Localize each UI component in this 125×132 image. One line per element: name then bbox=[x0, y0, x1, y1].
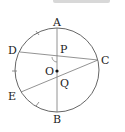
label-q: Q bbox=[60, 77, 69, 90]
label-o: O bbox=[45, 65, 54, 78]
label-e: E bbox=[8, 90, 16, 103]
chord-dc bbox=[20, 52, 98, 60]
label-a: A bbox=[52, 16, 62, 29]
label-c: C bbox=[101, 54, 109, 67]
label-p: P bbox=[60, 43, 68, 56]
label-d: D bbox=[8, 44, 17, 57]
angle-mark-p bbox=[52, 57, 57, 62]
circle-diagram: A B C D E P O Q bbox=[0, 0, 125, 132]
tick-mark-eb bbox=[36, 102, 39, 106]
label-b: B bbox=[53, 113, 61, 126]
center-dot bbox=[55, 69, 58, 72]
